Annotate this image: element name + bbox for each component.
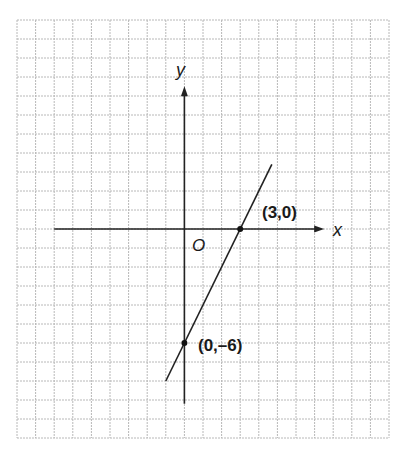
point-marker [237,226,243,232]
origin-label: O [192,236,205,256]
point-label-y-intercept: (0,–6) [198,336,242,356]
y-axis-arrow-icon [181,86,188,96]
x-axis-label: x [333,220,342,241]
y-axis-label: y [176,60,185,81]
point-label-x-intercept: (3,0) [262,203,297,223]
x-axis-arrow-icon [314,226,324,233]
point-marker [181,340,187,346]
